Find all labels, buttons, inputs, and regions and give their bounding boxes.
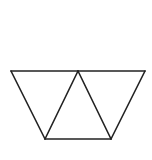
figure-edges [11,71,145,139]
trapezoid-triangles-figure [0,0,152,160]
edge-bottom-left-to-top-left [11,71,45,139]
diagram-canvas [0,0,152,160]
edge-top-right-to-bottom-right [111,71,145,139]
edge-top-middle-to-bottom-left [45,71,78,139]
edge-bottom-right-to-top-middle [78,71,111,139]
